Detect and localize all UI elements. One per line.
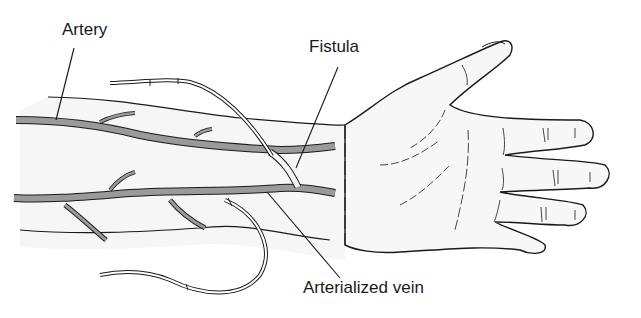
hand (345, 41, 609, 253)
artery-label: Artery (62, 20, 107, 40)
fistula-diagram: Artery Fistula Arterialized vein (0, 0, 641, 318)
fistula-label: Fistula (309, 37, 359, 57)
arterialized-vein-label: Arterialized vein (303, 278, 424, 298)
